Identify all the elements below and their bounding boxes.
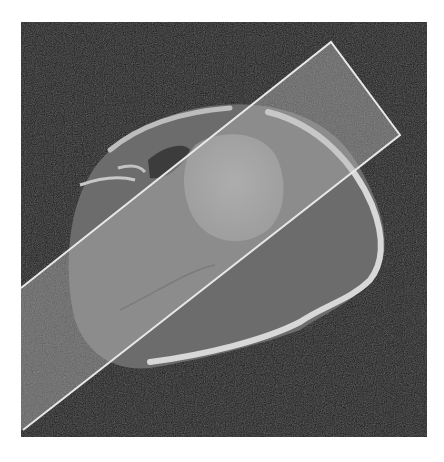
ct-image-viewer [0,0,444,462]
ct-scan-canvas [0,0,444,462]
